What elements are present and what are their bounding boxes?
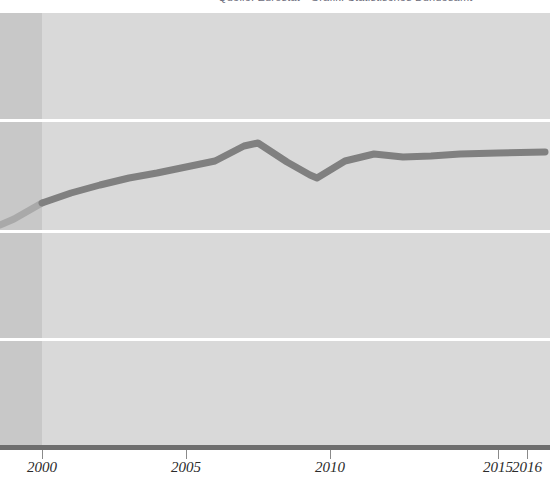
x-axis-tick-label: 2005 (171, 459, 201, 476)
plot-area (0, 13, 550, 447)
series-line-leading-segment (0, 203, 42, 225)
chart-title-strip: Quelle: Eurostat · Grafik: Statistisches… (0, 0, 550, 13)
x-axis-tick (330, 450, 331, 459)
x-axis-tick-label: 2016 (512, 459, 542, 476)
series-line-chart (0, 13, 550, 447)
x-axis-tick-label: 2000 (27, 459, 57, 476)
chart-title: Quelle: Eurostat · Grafik: Statistisches… (218, 0, 473, 3)
x-axis-tick (527, 450, 528, 459)
x-axis-tick (498, 450, 499, 459)
x-axis-tick (42, 450, 43, 459)
x-axis-tick (186, 450, 187, 459)
x-axis-tick-label: 2015 (483, 459, 513, 476)
series-line (42, 143, 545, 203)
chart-figure: Quelle: Eurostat · Grafik: Statistisches… (0, 0, 550, 491)
x-axis-tick-label: 2010 (315, 459, 345, 476)
x-axis-line (0, 445, 550, 450)
